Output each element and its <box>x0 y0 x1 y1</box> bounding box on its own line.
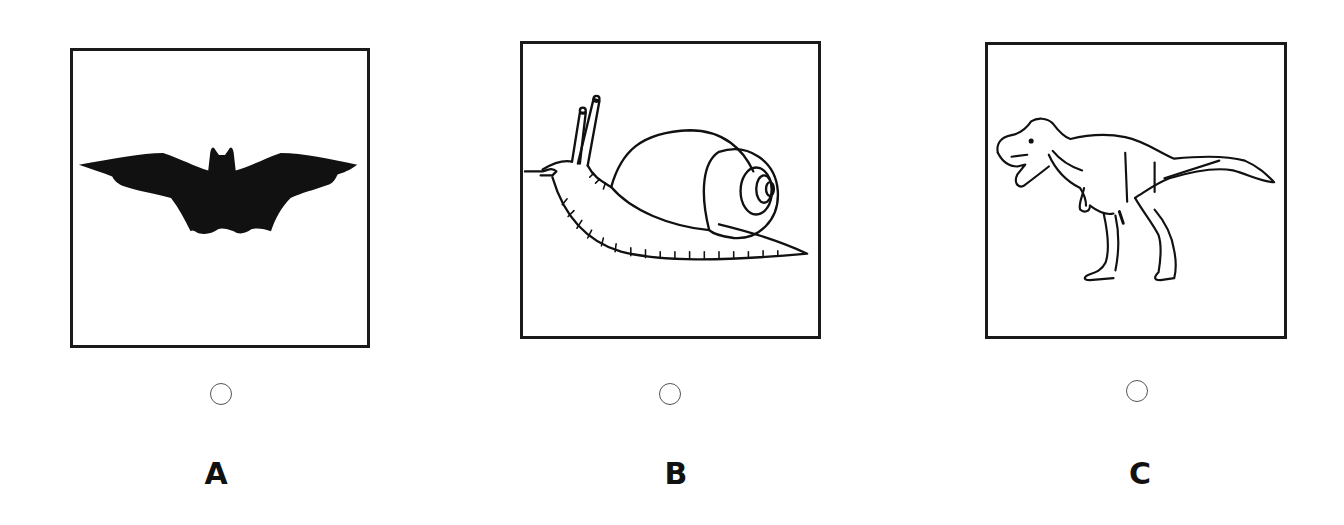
image-frame-a[interactable] <box>70 48 370 348</box>
option-label-c: C <box>1110 456 1170 491</box>
option-label-a: A <box>186 456 246 491</box>
dinosaur-icon <box>988 45 1284 336</box>
radio-option-a[interactable] <box>210 383 232 405</box>
radio-option-b[interactable] <box>659 383 681 405</box>
snail-icon <box>523 44 818 336</box>
option-label-b: B <box>646 456 706 491</box>
image-frame-c[interactable] <box>985 42 1287 339</box>
image-frame-b[interactable] <box>520 41 821 339</box>
bat-icon <box>73 51 367 345</box>
radio-option-c[interactable] <box>1126 380 1148 402</box>
